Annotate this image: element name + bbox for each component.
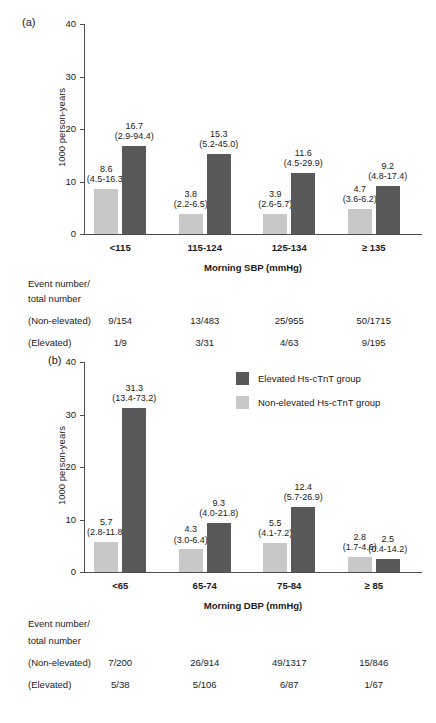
bar-value-label: 16.7(2.9-94.4) [96,121,172,141]
legend-swatch-elevated-icon [236,372,249,385]
x-axis-category-label: ≥ 135 [329,242,419,253]
bar [207,154,231,234]
bar [291,173,315,234]
y-axis-tick [80,467,84,468]
y-axis-tick-label: 40 [50,357,76,367]
y-axis-tick [80,415,84,416]
event-table-cell: 50/1715 [329,315,419,326]
event-table-cell: 6/87 [244,679,334,690]
bar-value-label: 9.2(4.8-17.4) [350,161,426,181]
x-axis-category-label: ≥ 85 [329,580,419,591]
chart-b-plot-area: 0102030405.7(2.8-11.8)31.3(13.4-73.2)<65… [84,362,422,572]
bar-value-label: 15.3(5.2-45.0) [181,129,257,149]
y-axis-tick [80,572,84,573]
y-axis-tick-label: 0 [50,567,76,577]
panel-b: (b) 0102030405.7(2.8-11.8)31.3(13.4-73.2… [0,340,436,723]
chart-b-y-axis-label: 1000 person-years [56,411,67,521]
y-axis-tick [80,24,84,25]
y-axis-tick [80,362,84,363]
x-axis-category-label: <115 [75,242,165,253]
event-table-a-header-line2: total number [28,293,81,304]
y-axis-tick [80,77,84,78]
y-axis-tick [80,234,84,235]
bar [263,543,287,572]
legend-label-non-elevated: Non-elevated Hs-cTnT group [258,396,380,409]
x-axis-category-label: 65-74 [160,580,250,591]
x-axis-category-label: <65 [75,580,165,591]
y-axis-tick-label: 0 [50,229,76,239]
bar [348,557,372,572]
event-table-cell: 25/955 [244,315,334,326]
bar-value-label: 11.6(4.5-29.9) [265,148,341,168]
bar [376,186,400,234]
bar [263,214,287,234]
chart-a-x-axis-title: Morning SBP (mmHg) [84,262,422,273]
bar [122,146,146,234]
chart-a-plot-area: 0102030408.6(4.5-16.3)16.7(2.9-94.4)<115… [84,24,422,234]
event-table-cell: 5/38 [75,679,165,690]
event-table-a-header-line1: Event number/ [28,278,90,289]
event-table-cell: 7/200 [75,657,165,668]
event-table-cell: 26/914 [160,657,250,668]
chart-y-axis [84,24,85,234]
x-axis-category-label: 75-84 [244,580,334,591]
bar [179,549,203,572]
event-table-cell: 13/483 [160,315,250,326]
event-table-cell: 15/846 [329,657,419,668]
bar [376,559,400,572]
bar [122,408,146,572]
chart-x-axis [84,572,422,573]
chart-x-axis [84,234,422,235]
legend-label-elevated: Elevated Hs-cTnT group [258,372,361,385]
bar-value-label: 9.3(4.0-21.8) [181,498,257,518]
bar [94,189,118,234]
bar [348,209,372,234]
chart-a-y-axis-label: 1000 person-years [56,73,67,183]
event-table-cell: 49/1317 [244,657,334,668]
legend-swatch-non-elevated-icon [236,396,249,409]
event-table-cell: 9/154 [75,315,165,326]
event-table-cell: 1/67 [329,679,419,690]
chart-y-axis [84,362,85,572]
bar [291,507,315,572]
y-axis-tick [80,129,84,130]
bar [179,214,203,234]
event-table-b-row-label-elevated: (Elevated) [28,679,71,690]
bar [207,523,231,572]
bar-value-label: 12.4(5.7-26.9) [265,482,341,502]
y-axis-tick-label: 40 [50,19,76,29]
panel-a-letter: (a) [22,16,35,28]
bar-value-label: 2.5(0.4-14.2) [350,534,426,554]
panel-a: (a) 0102030408.6(4.5-16.3)16.7(2.9-94.4)… [0,0,436,340]
event-table-b-header-line2: total number [28,635,81,646]
bar [94,542,118,572]
x-axis-category-label: 125-134 [244,242,334,253]
chart-b-x-axis-title: Morning DBP (mmHg) [84,600,422,611]
bar-value-label: 31.3(13.4-73.2) [96,383,172,403]
event-table-b-header-line1: Event number/ [28,618,90,629]
x-axis-category-label: 115-124 [160,242,250,253]
event-table-cell: 5/106 [160,679,250,690]
